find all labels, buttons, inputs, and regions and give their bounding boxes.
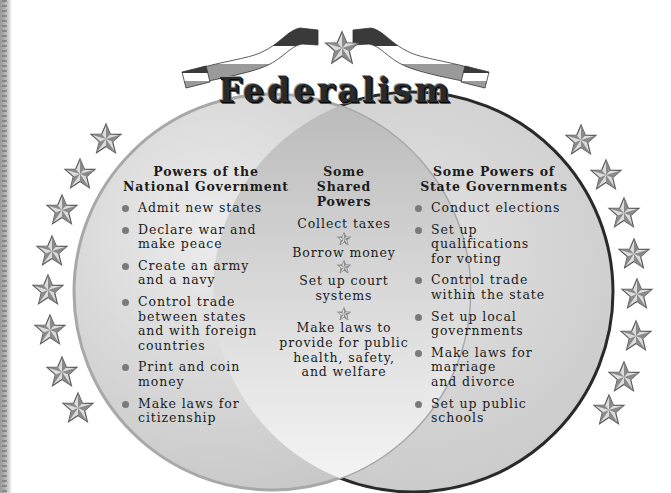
- bullet-icon: [415, 314, 422, 321]
- diagram-title: Federalism: [0, 71, 671, 110]
- list-item: Print and coin money: [121, 360, 291, 389]
- national-powers-section: Powers of the National Government Admit …: [121, 164, 291, 433]
- bullet-icon: [122, 364, 129, 371]
- list-item: Declare war and make peace: [121, 223, 291, 252]
- star-divider-icon: [337, 232, 351, 246]
- shared-item: Set up court systems: [278, 274, 410, 303]
- list-item: Make laws for citizenship: [121, 397, 291, 426]
- shared-item: Make laws to provide for public health, …: [278, 321, 410, 379]
- bullet-icon: [415, 277, 422, 284]
- list-item: Make laws for marriage and divorce: [414, 346, 574, 390]
- state-powers-list: Conduct elections Set up qualifications …: [414, 201, 574, 426]
- bullet-icon: [415, 401, 422, 408]
- bullet-icon: [122, 205, 129, 212]
- national-powers-list: Admit new states Declare war and make pe…: [121, 201, 291, 426]
- state-powers-heading: Some Powers of State Governments: [414, 164, 574, 194]
- national-powers-heading: Powers of the National Government: [121, 164, 291, 194]
- bullet-icon: [122, 227, 129, 234]
- star-divider-icon: [337, 307, 351, 321]
- bullet-icon: [415, 205, 422, 212]
- list-item: Set up qualifications for voting: [414, 223, 574, 267]
- bullet-icon: [122, 401, 129, 408]
- list-item: Admit new states: [121, 201, 291, 216]
- shared-item: Borrow money: [278, 246, 410, 261]
- state-powers-section: Some Powers of State Governments Conduct…: [414, 164, 574, 433]
- list-item: Conduct elections: [414, 201, 574, 216]
- bullet-icon: [415, 350, 422, 357]
- list-item: Set up public schools: [414, 397, 574, 426]
- bullet-icon: [122, 299, 129, 306]
- shared-powers-section: Some Shared Powers Collect taxes Borrow …: [278, 164, 410, 380]
- list-item: Set up local governments: [414, 310, 574, 339]
- shared-powers-heading: Some Shared Powers: [278, 164, 410, 209]
- list-item: Create an army and a navy: [121, 259, 291, 288]
- shared-item: Collect taxes: [278, 217, 410, 232]
- list-item: Control trade between states and with fo…: [121, 295, 291, 353]
- list-item: Control trade within the state: [414, 273, 574, 302]
- star-divider-icon: [337, 260, 351, 274]
- bullet-icon: [415, 227, 422, 234]
- bullet-icon: [122, 263, 129, 270]
